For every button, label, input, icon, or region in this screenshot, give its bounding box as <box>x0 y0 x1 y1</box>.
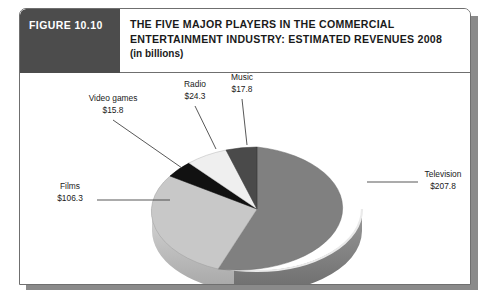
figure-card: FIGURE 10.10 THE FIVE MAJOR PLAYERS IN T… <box>19 8 471 285</box>
callout-radio-value: $24.3 <box>185 91 206 101</box>
figure-title-line-2: ENTERTAINMENT INDUSTRY: ESTIMATED REVENU… <box>130 32 462 47</box>
leader-line-music <box>242 99 247 145</box>
figure-number-label: FIGURE 10.10 <box>29 19 103 31</box>
figure-header: FIGURE 10.10 THE FIVE MAJOR PLAYERS IN T… <box>20 9 470 73</box>
callout-music-value: $17.8 <box>232 84 253 94</box>
leader-line-video-games <box>113 120 182 168</box>
callout-television-value: $207.8 <box>430 181 456 191</box>
figure-subtitle: (in billions) <box>130 46 462 61</box>
callout-video-games-value: $15.8 <box>103 105 124 115</box>
figure-drop-shadow-right <box>471 16 478 286</box>
figure-title-line-1: THE FIVE MAJOR PLAYERS IN THE COMMERCIAL <box>130 17 462 32</box>
pie-chart-plot-area: Music $17.8 Radio $24.3 Video games $15.… <box>20 73 470 285</box>
figure-number-badge: FIGURE 10.10 <box>20 9 120 73</box>
figure-root: FIGURE 10.10 THE FIVE MAJOR PLAYERS IN T… <box>0 0 482 305</box>
callout-films-label: Films <box>60 181 80 191</box>
pie-top-face-group <box>151 147 342 270</box>
callout-music-label: Music <box>231 73 253 82</box>
pie-chart-svg: Music $17.8 Radio $24.3 Video games $15.… <box>20 73 470 285</box>
callout-films-value: $106.3 <box>57 193 83 203</box>
callout-television-label: Television <box>425 169 462 179</box>
leader-line-radio <box>195 106 216 149</box>
callout-radio-label: Radio <box>184 79 206 89</box>
figure-title-block: THE FIVE MAJOR PLAYERS IN THE COMMERCIAL… <box>130 17 462 61</box>
callout-video-games-label: Video games <box>89 93 138 103</box>
